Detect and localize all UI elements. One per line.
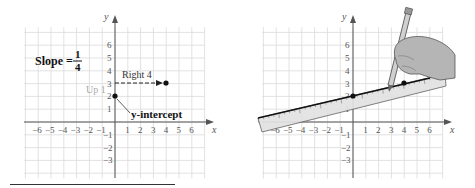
x-tick-label: 6 — [427, 125, 432, 135]
left-y-arrow-icon — [112, 15, 118, 23]
section-rule — [10, 184, 175, 185]
y-tick-label: 1 — [107, 104, 112, 114]
y-tick-label: −1 — [103, 130, 113, 140]
ruler — [258, 74, 446, 132]
y-tick-label: 5 — [345, 53, 350, 63]
x-tick-label: −4 — [296, 125, 306, 135]
slope-label: Slope = — [35, 54, 73, 68]
x-tick-label: −3 — [309, 125, 319, 135]
point-4-3 — [163, 80, 168, 85]
slope-numerator: 1 — [75, 48, 81, 60]
up-label: Up 1 — [86, 84, 106, 95]
x-tick-label: −6 — [32, 125, 42, 135]
y-tick-label: 3 — [345, 79, 350, 89]
x-tick-label: 2 — [376, 125, 381, 135]
left-x-axis-label: x — [211, 124, 217, 135]
right-point-4-3 — [401, 80, 406, 85]
y-tick-label: 6 — [107, 40, 112, 50]
hand-icon — [394, 36, 455, 80]
y-tick-label: 3 — [107, 79, 112, 89]
right-y-arrow-icon — [350, 15, 356, 23]
left-y-axis-label: y — [103, 11, 109, 22]
y-tick-label: 6 — [345, 40, 350, 50]
right-label: Right 4 — [122, 69, 152, 80]
right-point-0-2 — [350, 93, 355, 98]
x-tick-label: 2 — [138, 125, 143, 135]
left-graph: y x −6−5−4−3−2−1123456123456−1−2−3 Slope… — [24, 11, 217, 178]
x-tick-label: 4 — [402, 125, 407, 135]
y-tick-label: 4 — [107, 66, 112, 76]
y-tick-label: −3 — [103, 155, 113, 165]
y-tick-label: −2 — [103, 143, 113, 153]
right-y-axis-label: y — [341, 11, 347, 22]
x-tick-label: 1 — [363, 125, 368, 135]
left-grid — [24, 27, 204, 178]
y-tick-label: −1 — [341, 130, 351, 140]
x-tick-label: 6 — [189, 125, 194, 135]
slope-denominator: 4 — [75, 61, 81, 73]
right-arrowhead-icon — [156, 80, 163, 86]
point-0-2 — [112, 93, 117, 98]
x-tick-label: 1 — [125, 125, 130, 135]
x-tick-label: −5 — [45, 125, 55, 135]
x-tick-label: 4 — [164, 125, 169, 135]
figure-canvas: y x −6−5−4−3−2−1123456123456−1−2−3 Slope… — [0, 0, 475, 188]
right-graph: y x −6−5−4−3−2−1123456123456−1−2−3 — [258, 7, 455, 178]
y-tick-label: 5 — [107, 53, 112, 63]
x-tick-label: −4 — [58, 125, 68, 135]
x-tick-label: −2 — [321, 125, 331, 135]
y-tick-label: −3 — [341, 155, 351, 165]
x-tick-label: 5 — [177, 125, 182, 135]
right-x-axis-label: x — [449, 124, 455, 135]
y-tick-label: −2 — [341, 143, 351, 153]
x-tick-label: 5 — [415, 125, 420, 135]
intercept-label: y-intercept — [131, 108, 182, 120]
x-tick-label: −3 — [71, 125, 81, 135]
x-tick-label: 3 — [151, 125, 156, 135]
y-tick-label: 2 — [107, 91, 112, 101]
y-tick-label: 4 — [345, 66, 350, 76]
x-tick-label: 3 — [389, 125, 394, 135]
x-tick-label: −2 — [83, 125, 93, 135]
